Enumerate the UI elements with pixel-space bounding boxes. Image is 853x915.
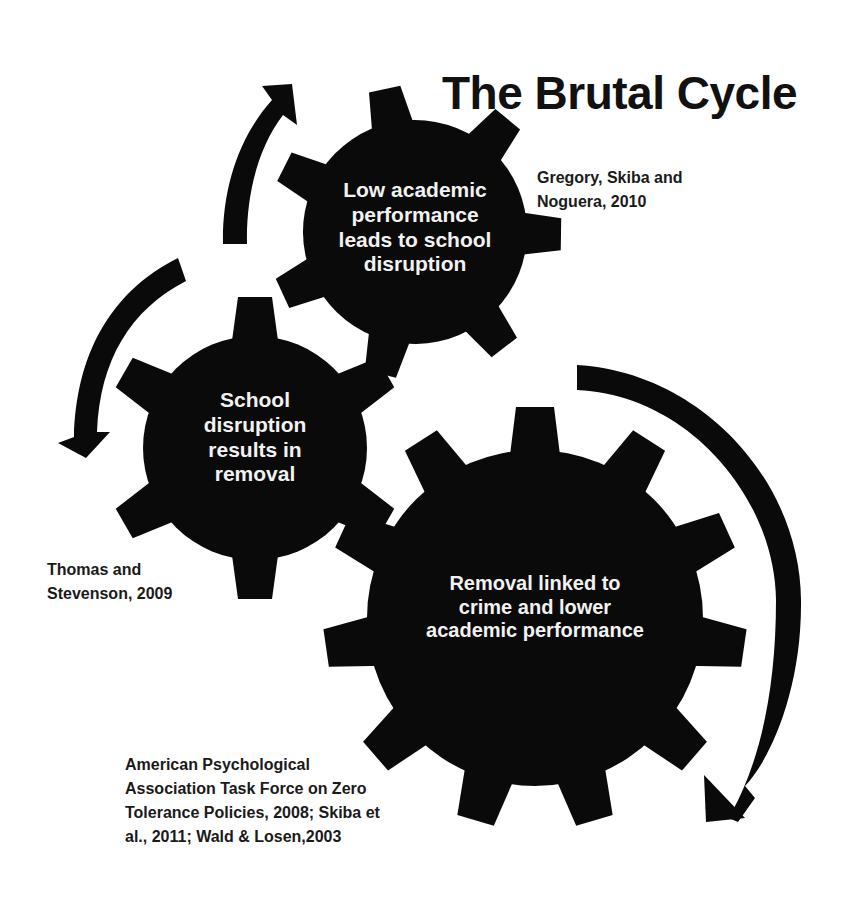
gear-large-line: academic performance (415, 619, 655, 643)
citation-middle: Thomas and Stevenson, 2009 (47, 558, 172, 606)
gear-large-line: crime and lower (415, 596, 655, 620)
citation-top: Gregory, Skiba and Noguera, 2010 (537, 166, 683, 214)
gear-middle-line: disruption (180, 413, 330, 438)
citation-line: al., 2011; Wald & Losen,2003 (125, 825, 380, 849)
gear-middle-line: results in (180, 438, 330, 463)
gear-middle-line: School (180, 388, 330, 413)
gear-middle-line: removal (180, 462, 330, 487)
gear-middle-label: School disruption results in removal (180, 388, 330, 487)
citation-line: Tolerance Policies, 2008; Skiba et (125, 801, 380, 825)
gear-top-line: performance (325, 203, 505, 228)
gear-top-line: leads to school (325, 228, 505, 253)
gear-large-label: Removal linked to crime and lower academ… (415, 572, 655, 643)
citation-line: Gregory, Skiba and (537, 166, 683, 190)
citation-line: American Psychological (125, 753, 380, 777)
citation-large: American Psychological Association Task … (125, 753, 380, 849)
gear-top-label: Low academic performance leads to school… (325, 178, 505, 277)
gear-top-line: disruption (325, 252, 505, 277)
citation-line: Stevenson, 2009 (47, 582, 172, 606)
page-title: The Brutal Cycle (442, 66, 797, 120)
diagram-canvas: The Brutal Cycle Low academic performanc… (0, 0, 853, 915)
citation-line: Thomas and (47, 558, 172, 582)
gear-top-line: Low academic (325, 178, 505, 203)
gear-large-line: Removal linked to (415, 572, 655, 596)
citation-line: Noguera, 2010 (537, 190, 683, 214)
citation-line: Association Task Force on Zero (125, 777, 380, 801)
